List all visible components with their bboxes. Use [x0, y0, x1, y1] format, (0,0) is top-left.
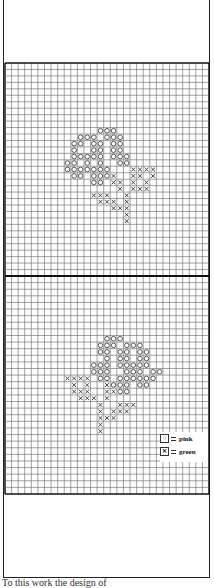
bottom-motif-green-stitch	[85, 390, 89, 394]
top-motif-pink-stitch	[78, 154, 83, 159]
top-motif-pink-stitch	[124, 161, 129, 166]
bottom-motif-pink-stitch	[98, 376, 103, 381]
top-motif-green-stitch	[98, 193, 102, 197]
top-motif-pink-stitch	[85, 135, 90, 140]
top-motif-pink-stitch	[72, 174, 77, 179]
bottom-motif-green-stitch	[66, 376, 70, 380]
top-motif-pink-stitch	[85, 154, 90, 159]
top-motif-green-stitch	[112, 200, 116, 204]
bottom-motif-pink-stitch	[118, 383, 123, 388]
top-motif-green-stitch	[145, 180, 149, 184]
top-motif-green-stitch	[118, 206, 122, 210]
top-motif-green-stitch	[112, 174, 116, 178]
top-motif-pink-stitch	[92, 174, 97, 179]
bottom-motif-pink-stitch	[98, 350, 103, 355]
bottom-motif-pink-stitch	[105, 356, 110, 361]
top-motif-pink-stitch	[78, 141, 83, 146]
bottom-motif-pink-stitch	[138, 369, 143, 374]
bottom-motif-green-stitch	[72, 390, 76, 394]
bottom-motif-green-stitch	[118, 403, 122, 407]
top-motif-green-stitch	[138, 168, 142, 172]
top-motif-green-stitch	[138, 174, 142, 178]
bottom-motif-green-stitch	[72, 376, 76, 380]
top-motif-pink-stitch	[98, 161, 103, 166]
bottom-motif-green-stitch	[98, 409, 102, 413]
bottom-motif-green-stitch	[131, 403, 135, 407]
bottom-motif-pink-stitch	[98, 369, 103, 374]
top-motif-pink-stitch	[72, 161, 77, 166]
bottom-motif-green-stitch	[105, 416, 109, 420]
top-motif-pink-stitch	[78, 135, 83, 140]
top-motif-pink-stitch	[78, 167, 83, 172]
bottom-motif-green-stitch	[79, 396, 83, 400]
top-motif-green-stitch	[125, 193, 129, 197]
bottom-motif-pink-stitch	[124, 369, 129, 374]
bottom-motif-pink-stitch	[105, 336, 110, 341]
top-motif-pink-stitch	[72, 167, 77, 172]
bottom-motif-pink-stitch	[151, 376, 156, 381]
bottom-motif-pink-stitch	[118, 363, 123, 368]
top-motif-pink-stitch	[65, 161, 70, 166]
bottom-motif-pink-stitch	[111, 383, 116, 388]
chart-page: ○ pink ✕ green To this work the design o…	[0, 0, 214, 588]
top-motif-pink-stitch	[72, 154, 77, 159]
bottom-motif-green-stitch	[85, 383, 89, 387]
bottom-motif-pink-stitch	[151, 369, 156, 374]
top-motif-green-stitch	[112, 180, 116, 184]
bottom-motif-pink-stitch	[131, 363, 136, 368]
bottom-motif-pink-stitch	[131, 376, 136, 381]
bottom-motif-pink-stitch	[105, 376, 110, 381]
bottom-motif-green-stitch	[85, 376, 89, 380]
top-motif-pink-stitch	[65, 167, 70, 172]
top-motif-pink-stitch	[111, 141, 116, 146]
top-motif-pink-stitch	[105, 135, 110, 140]
top-motif-green-stitch	[151, 174, 155, 178]
equals-icon	[171, 450, 176, 454]
top-motif-pink-stitch	[118, 161, 123, 166]
bottom-motif-pink-stitch	[131, 369, 136, 374]
bottom-motif-pink-stitch	[118, 356, 123, 361]
bottom-motif-pink-stitch	[124, 383, 129, 388]
bottom-motif-green-stitch	[98, 429, 102, 433]
page-caption: To this work the design of	[2, 578, 214, 588]
legend-item-green: ✕ green	[160, 445, 208, 458]
bottom-motif-pink-stitch	[118, 350, 123, 355]
bottom-motif-pink-stitch	[144, 376, 149, 381]
top-motif-pink-stitch	[92, 141, 97, 146]
top-motif-green-stitch	[131, 168, 135, 172]
bottom-motif-pink-stitch	[138, 376, 143, 381]
bottom-motif-green-stitch	[125, 403, 129, 407]
top-motif-pink-stitch	[111, 128, 116, 133]
bottom-motif-green-stitch	[112, 416, 116, 420]
legend: ○ pink ✕ green	[160, 432, 208, 462]
bottom-motif-pink-stitch	[124, 376, 129, 381]
bottom-motif-green-stitch	[85, 396, 89, 400]
top-motif-pink-stitch	[92, 180, 97, 185]
bottom-motif-pink-stitch	[105, 343, 110, 348]
bottom-motif-pink-stitch	[118, 389, 123, 394]
top-motif-pink-stitch	[111, 135, 116, 140]
bottom-motif-pink-stitch	[124, 350, 129, 355]
top-motif-pink-stitch	[105, 128, 110, 133]
top-motif-pink-stitch	[118, 141, 123, 146]
bottom-motif-pink-stitch	[118, 376, 123, 381]
top-motif-pink-stitch	[98, 141, 103, 146]
bottom-motif-green-stitch	[79, 390, 83, 394]
equals-icon	[171, 437, 176, 441]
bottom-motif-pink-stitch	[118, 336, 123, 341]
bottom-motif-green-stitch	[105, 390, 109, 394]
bottom-motif-pink-stitch	[144, 363, 149, 368]
top-motif-pink-stitch	[92, 167, 97, 172]
top-motif-pink-stitch	[98, 180, 103, 185]
top-motif-green-stitch	[118, 180, 122, 184]
bottom-motif-green-stitch	[112, 390, 116, 394]
top-motif-green-stitch	[131, 187, 135, 191]
top-motif-pink-stitch	[118, 135, 123, 140]
top-motif-pink-stitch	[72, 148, 77, 153]
bottom-motif-pink-stitch	[157, 369, 162, 374]
bottom-motif-pink-stitch	[124, 389, 129, 394]
legend-item-pink: ○ pink	[160, 432, 208, 445]
top-motif-green-stitch	[125, 206, 129, 210]
bottom-motif-pink-stitch	[98, 343, 103, 348]
bottom-motif-green-stitch	[105, 396, 109, 400]
